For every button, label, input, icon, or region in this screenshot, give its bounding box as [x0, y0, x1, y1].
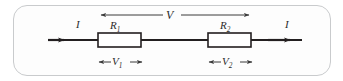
- total-voltage-label: V: [166, 9, 173, 21]
- voltage-1-subscript: 1: [119, 62, 123, 70]
- voltage-2-symbol-text: V: [222, 55, 229, 67]
- resistor-2-symbol-text: R: [220, 19, 227, 31]
- voltage-1-symbol-text: V: [112, 55, 119, 67]
- current-label-right: I: [285, 19, 289, 30]
- resistor-1-subscript: 1: [117, 26, 121, 34]
- voltage-2-label: V2: [222, 56, 232, 67]
- resistor-2-label: R2: [220, 20, 230, 31]
- voltage-1-label: V1: [112, 56, 122, 67]
- resistor-1-symbol-text: R: [110, 19, 117, 31]
- circuit-diagram-image: V R1 R2 I I V1 V2: [0, 0, 343, 81]
- resistor-1-symbol: [98, 33, 141, 47]
- resistor-2-subscript: 2: [227, 26, 231, 34]
- current-label-left: I: [76, 19, 80, 30]
- resistor-1-label: R1: [110, 20, 120, 31]
- resistor-2-symbol: [208, 33, 251, 47]
- voltage-2-subscript: 2: [229, 62, 233, 70]
